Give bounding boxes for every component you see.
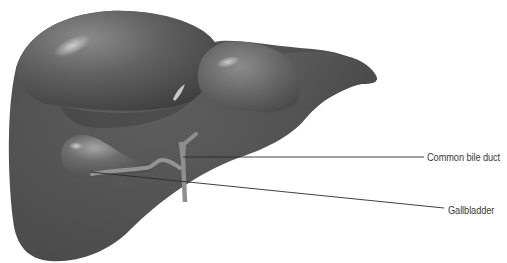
- highlight: [69, 142, 83, 150]
- label-gallbladder: Gallbladder: [448, 204, 494, 216]
- liver-illustration: [0, 0, 507, 263]
- label-common-bile-duct: Common bile duct: [427, 151, 500, 163]
- right-lobe: [16, 11, 218, 111]
- liver-diagram: Common bile duct Gallbladder: [0, 0, 507, 263]
